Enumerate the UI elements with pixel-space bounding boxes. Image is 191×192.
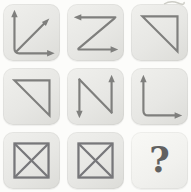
right-triangle-icon	[133, 6, 186, 59]
puzzle-cell-r2c1	[3, 68, 60, 125]
boxed-x-icon	[69, 134, 122, 187]
l-axes-icon	[133, 70, 186, 123]
puzzle-cell-r2c2	[67, 68, 124, 125]
puzzle-cell-r1c2	[67, 4, 124, 61]
puzzle-grid: ?	[0, 0, 191, 192]
puzzle-cell-r1c3	[131, 4, 188, 61]
puzzle-cell-r2c3	[131, 68, 188, 125]
puzzle-cell-r3c2	[67, 132, 124, 189]
puzzle-cell-r3c1	[3, 132, 60, 189]
axes-with-diagonal-arrow-icon	[5, 6, 58, 59]
z-arrows-icon	[69, 6, 122, 59]
puzzle-cell-r1c1	[3, 4, 60, 61]
boxed-x-icon	[5, 134, 58, 187]
n-arrows-icon	[69, 70, 122, 123]
right-triangle-icon	[5, 70, 58, 123]
scan-artifact	[163, 0, 185, 6]
question-mark: ?	[149, 142, 170, 177]
puzzle-cell-r3c3-answer: ?	[131, 132, 188, 189]
